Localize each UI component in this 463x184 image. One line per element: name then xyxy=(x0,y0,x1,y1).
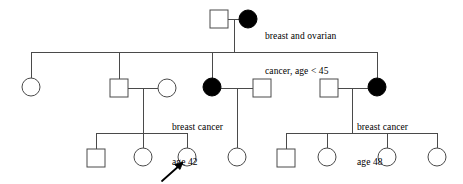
symbol-male-unaffected-II-2[interactable] xyxy=(110,79,128,97)
symbol-male-unaffected-III-5[interactable] xyxy=(277,149,295,167)
symbol-male-unaffected-III-1[interactable] xyxy=(87,149,105,167)
annotation-top-mother-line2: cancer, age < 45 xyxy=(265,66,336,78)
symbol-female-unaffected-III-4[interactable] xyxy=(228,148,246,166)
symbol-female-affected-II-7[interactable] xyxy=(368,78,386,96)
symbol-male-unaffected-I-1[interactable] xyxy=(210,10,228,28)
symbol-female-unaffected-II-3[interactable] xyxy=(158,79,176,97)
symbol-female-affected-I-2[interactable] xyxy=(239,10,257,28)
annotation-top-mother-line1: breast and ovarian xyxy=(265,31,336,43)
annotation-gen2-daughter-age48: breast cancer age 48 xyxy=(357,99,408,184)
symbol-female-unaffected-III-6[interactable] xyxy=(318,148,336,166)
symbol-female-unaffected-III-2[interactable] xyxy=(134,148,152,166)
annotation-gen2-daughter-right-line1: breast cancer xyxy=(357,122,408,134)
symbol-female-unaffected-II-1[interactable] xyxy=(22,78,40,96)
annotation-gen2-daughter-line1: breast cancer xyxy=(172,122,223,134)
annotation-gen2-daughter-age42: breast cancer age 42 xyxy=(172,99,223,184)
pedigree-chart: breast and ovarian cancer, age < 45 brea… xyxy=(0,0,463,184)
annotation-top-mother: breast and ovarian cancer, age < 45 xyxy=(265,8,336,100)
annotation-gen2-daughter-right-line2: age 48 xyxy=(357,157,408,169)
annotation-gen2-daughter-line2: age 42 xyxy=(172,157,223,169)
symbol-female-affected-II-4[interactable] xyxy=(203,78,221,96)
symbol-female-unaffected-III-8[interactable] xyxy=(428,148,446,166)
